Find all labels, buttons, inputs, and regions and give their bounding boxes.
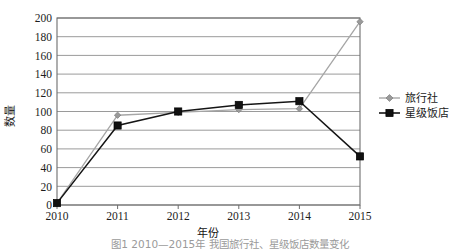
data-point-marker [356,153,363,160]
series-markers-star-hotel [53,98,363,207]
data-point-marker [296,98,303,105]
data-point-marker [114,122,121,129]
y-tick-label: 140 [35,68,53,80]
data-point-marker [53,200,60,207]
legend-label: 旅行社 [405,91,438,105]
series-line-star-hotel [57,101,360,203]
line-chart: 200 180 160 140 120 100 80 60 40 20 0 20… [0,0,461,249]
y-tick-label: 60 [41,143,53,155]
chart-legend: 旅行社 星级饭店 [379,91,449,120]
diamond-marker-icon [386,95,393,102]
x-axis-ticks [57,205,360,209]
y-tick-label: 20 [41,181,53,193]
y-tick-label: 200 [35,12,53,24]
y-tick-label: 120 [35,87,53,99]
legend-label: 星级饭店 [405,106,449,120]
y-tick-label: 80 [41,124,53,136]
x-tick-label: 2015 [349,210,372,222]
y-tick-label: 100 [35,106,53,118]
figure-caption: 图1 2010—2015年 我国旅行社、星级饭店数量变化 [111,238,349,249]
legend-item-travel-agency[interactable]: 旅行社 [379,91,438,105]
series-markers-travel-agency [54,19,363,207]
series-line-travel-agency [57,22,360,203]
x-tick-label: 2014 [288,210,311,222]
y-tick-label: 180 [35,31,53,43]
chart-figure: 200 180 160 140 120 100 80 60 40 20 0 20… [0,0,461,249]
legend-item-star-hotel[interactable]: 星级饭店 [379,106,449,120]
y-tick-label: 40 [41,162,53,174]
y-tick-label: 160 [35,50,53,62]
data-point-marker [175,108,182,115]
x-tick-label: 2012 [167,210,190,222]
square-marker-icon [386,109,393,116]
x-axis-tick-labels: 2010 2011 2012 2013 2014 2015 [46,210,372,222]
data-point-marker [235,101,242,108]
x-tick-label: 2010 [46,210,69,222]
x-tick-label: 2011 [106,210,129,222]
x-tick-label: 2013 [227,210,250,222]
y-axis-tick-labels: 200 180 160 140 120 100 80 60 40 20 0 [35,12,53,211]
y-axis-title: 数量 [4,105,17,127]
